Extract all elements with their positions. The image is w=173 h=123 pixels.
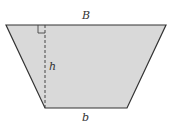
trapezoid-diagram: B h b (0, 0, 173, 123)
top-base-label: B (81, 9, 90, 22)
trapezoid-shape (6, 25, 166, 108)
bottom-base-label: b (82, 111, 89, 123)
height-label: h (49, 60, 56, 73)
